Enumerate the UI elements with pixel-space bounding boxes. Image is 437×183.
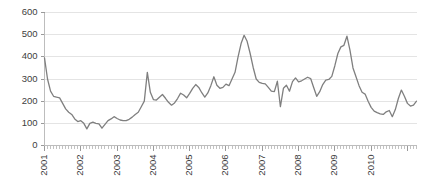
x-tick-label-2010: 2010 xyxy=(365,155,376,176)
y-tick-label: 200 xyxy=(22,95,38,106)
chart-canvas: 0100200300400500600 20012002200320042005… xyxy=(0,0,437,183)
x-tick-label-2004: 2004 xyxy=(147,155,158,176)
y-tick-label: 400 xyxy=(22,50,38,61)
x-tick-label-2007: 2007 xyxy=(256,155,267,176)
x-tick-label-2006: 2006 xyxy=(219,155,230,176)
x-tick-label-2003: 2003 xyxy=(111,155,122,176)
y-tick-label: 500 xyxy=(22,28,38,39)
y-tick-label: 0 xyxy=(32,139,37,150)
y-tick-label: 100 xyxy=(22,117,38,128)
x-tick-label-2001: 2001 xyxy=(38,155,49,176)
y-tick-label: 300 xyxy=(22,73,38,84)
y-tick-label: 600 xyxy=(22,6,38,17)
line-chart-figure: 0100200300400500600 20012002200320042005… xyxy=(0,0,437,183)
x-tick-label-2002: 2002 xyxy=(74,155,85,176)
x-tick-label-2005: 2005 xyxy=(183,155,194,176)
x-tick-label-2009: 2009 xyxy=(328,155,339,176)
x-tick-label-2008: 2008 xyxy=(292,155,303,176)
